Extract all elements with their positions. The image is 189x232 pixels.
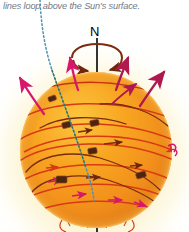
figure-caption: lines loop above the Sun's surface.	[3, 0, 189, 12]
sunspot-pair	[90, 119, 100, 126]
sunspot-pair	[88, 147, 98, 154]
sun-magnetic-field-diagram: lines loop above the Sun's surface. N	[0, 0, 189, 232]
north-pole-label: N	[90, 25, 99, 38]
sunspot-pair	[56, 176, 67, 183]
